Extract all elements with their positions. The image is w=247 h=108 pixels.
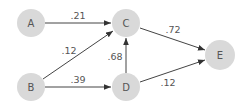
- node-label-c: C: [123, 18, 130, 29]
- node-a: A: [17, 9, 45, 37]
- graph-diagram: .21 .12 .39 .68 .72 .12 A B C D E: [0, 0, 247, 108]
- node-label-a: A: [28, 18, 35, 29]
- edge-label-b-c: .12: [61, 45, 76, 56]
- node-b: B: [17, 73, 45, 101]
- node-c: C: [112, 9, 140, 37]
- edge-label-d-c: .68: [107, 51, 122, 62]
- edge-label-b-d: .39: [70, 74, 85, 85]
- node-d: D: [112, 73, 140, 101]
- edge-label-a-c: .21: [70, 10, 85, 21]
- node-label-e: E: [217, 50, 223, 61]
- node-e: E: [205, 40, 235, 70]
- edge-b-c: [43, 31, 113, 79]
- edge-label-c-e: .72: [165, 24, 180, 35]
- node-label-d: D: [122, 82, 130, 93]
- edge-label-d-e: .12: [160, 77, 175, 88]
- node-label-b: B: [28, 82, 35, 93]
